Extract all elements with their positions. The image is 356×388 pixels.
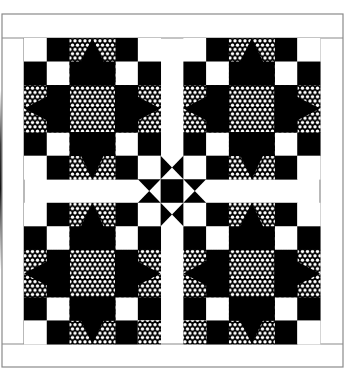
corner-patch bbox=[297, 226, 320, 250]
star-body-patch bbox=[92, 297, 115, 321]
corner-patch bbox=[115, 203, 138, 227]
variant-patch bbox=[138, 320, 161, 344]
corner-patch bbox=[297, 156, 320, 180]
corner-patch bbox=[183, 203, 206, 227]
block-bottom-left bbox=[24, 203, 161, 345]
corner-patch bbox=[138, 62, 161, 86]
star-body-patch bbox=[92, 226, 115, 250]
corner-patch bbox=[206, 62, 229, 86]
block-top-right bbox=[183, 38, 320, 180]
corner-patch bbox=[274, 297, 297, 321]
corner-patch bbox=[138, 203, 161, 227]
corner-patch bbox=[24, 132, 47, 156]
corner-patch bbox=[274, 132, 297, 156]
quilt-image bbox=[0, 0, 356, 388]
star-body-patch bbox=[274, 273, 297, 297]
star-body-patch bbox=[206, 109, 229, 133]
star-body-patch bbox=[70, 132, 93, 156]
corner-patch bbox=[47, 38, 70, 62]
star-body-patch bbox=[229, 62, 252, 86]
corner-patch bbox=[274, 62, 297, 86]
corner-patch bbox=[24, 62, 47, 86]
corner-patch bbox=[206, 203, 229, 227]
corner-patch bbox=[138, 132, 161, 156]
corner-patch bbox=[47, 320, 70, 344]
star-body-patch bbox=[206, 273, 229, 297]
variant-patch bbox=[183, 320, 206, 344]
cornerstone bbox=[161, 179, 184, 203]
star-body-patch bbox=[206, 250, 229, 274]
star-body-patch bbox=[92, 132, 115, 156]
corner-patch bbox=[24, 38, 47, 62]
corner-patch bbox=[24, 226, 47, 250]
star-body-patch bbox=[115, 273, 138, 297]
corner-patch bbox=[24, 203, 47, 227]
star-body-patch bbox=[229, 132, 252, 156]
corner-patch bbox=[47, 62, 70, 86]
corner-patch bbox=[274, 156, 297, 180]
star-body-patch bbox=[252, 297, 275, 321]
corner-patch bbox=[274, 226, 297, 250]
corner-patch bbox=[115, 62, 138, 86]
corner-patch bbox=[274, 38, 297, 62]
star-body-patch bbox=[47, 85, 70, 109]
corner-patch bbox=[206, 38, 229, 62]
corner-patch bbox=[138, 226, 161, 250]
corner-patch bbox=[47, 132, 70, 156]
corner-patch bbox=[115, 226, 138, 250]
corner-patch bbox=[297, 62, 320, 86]
star-body-patch bbox=[274, 85, 297, 109]
corner-patch bbox=[206, 132, 229, 156]
star-body-patch bbox=[47, 273, 70, 297]
corner-patch bbox=[183, 132, 206, 156]
center-square bbox=[70, 85, 116, 132]
corner-patch bbox=[24, 297, 47, 321]
star-body-patch bbox=[70, 297, 93, 321]
star-body-patch bbox=[229, 226, 252, 250]
corner-patch bbox=[297, 297, 320, 321]
star-body-patch bbox=[115, 85, 138, 109]
star-body-patch bbox=[47, 250, 70, 274]
star-body-patch bbox=[252, 132, 275, 156]
star-body-patch bbox=[229, 297, 252, 321]
corner-patch bbox=[138, 156, 161, 180]
corner-patch bbox=[274, 320, 297, 344]
corner-patch bbox=[206, 320, 229, 344]
star-body-patch bbox=[206, 85, 229, 109]
corner-patch bbox=[206, 297, 229, 321]
corner-patch bbox=[47, 156, 70, 180]
corner-patch bbox=[115, 132, 138, 156]
star-body-patch bbox=[115, 109, 138, 133]
corner-patch bbox=[183, 156, 206, 180]
corner-patch bbox=[274, 203, 297, 227]
corner-patch bbox=[47, 203, 70, 227]
block-bottom-right bbox=[183, 203, 320, 345]
corner-patch bbox=[115, 297, 138, 321]
star-body-patch bbox=[70, 226, 93, 250]
corner-patch bbox=[138, 38, 161, 62]
star-body-patch bbox=[115, 250, 138, 274]
center-square bbox=[229, 250, 275, 297]
corner-patch bbox=[115, 156, 138, 180]
corner-patch bbox=[138, 297, 161, 321]
corner-patch bbox=[24, 156, 47, 180]
corner-patch bbox=[183, 226, 206, 250]
star-body-patch bbox=[274, 250, 297, 274]
star-body-patch bbox=[274, 109, 297, 133]
star-body-patch bbox=[252, 62, 275, 86]
corner-patch bbox=[115, 320, 138, 344]
corner-patch bbox=[206, 226, 229, 250]
corner-patch bbox=[183, 297, 206, 321]
star-body-patch bbox=[70, 62, 93, 86]
corner-patch bbox=[183, 38, 206, 62]
star-body-patch bbox=[47, 109, 70, 133]
corner-patch bbox=[297, 132, 320, 156]
corner-patch bbox=[115, 38, 138, 62]
corner-patch bbox=[24, 320, 47, 344]
star-body-patch bbox=[252, 226, 275, 250]
corner-patch bbox=[206, 156, 229, 180]
corner-patch bbox=[47, 226, 70, 250]
corner-patch bbox=[183, 62, 206, 86]
corner-patch bbox=[297, 203, 320, 227]
block-top-left bbox=[24, 38, 161, 180]
